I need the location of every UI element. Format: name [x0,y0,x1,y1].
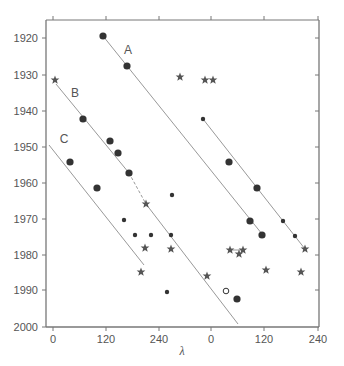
y-tick-label: 2000 [14,321,38,333]
dot-marker [106,137,113,144]
y-tick-label: 1950 [14,141,38,153]
dot-marker-small [170,193,174,197]
x-tick-label: 240 [309,333,327,345]
y-tick-label: 1980 [14,249,38,261]
dot-marker [258,231,265,238]
dot-marker [233,295,240,302]
dot-marker [66,158,73,165]
star-marker [209,75,218,83]
dot-marker-small [281,219,285,223]
star-marker [142,199,151,207]
y-tick-label: 1920 [14,32,38,44]
y-tick-label: 1970 [14,213,38,225]
dot-marker-small [122,218,126,222]
dot-marker [93,184,100,191]
dot-marker [79,115,86,122]
star-marker [203,271,212,279]
star-marker [262,265,271,273]
x-tick-label: 0 [208,333,214,345]
dot-marker [253,184,260,191]
y-tick-label: 1940 [14,105,38,117]
dot-marker [125,169,132,176]
y-tick-label: 1930 [14,69,38,81]
star-marker [137,267,146,275]
dot-marker [99,32,106,39]
series-label-b: B [71,86,79,100]
open-circle-marker [223,288,229,294]
series-lines [49,36,305,324]
star-marker [226,245,235,253]
x-tick-label: 240 [150,333,168,345]
dot-marker [225,158,232,165]
plot-frame [46,20,319,327]
dot-marker [123,62,130,69]
series-line-b-lower [146,204,238,324]
x-axis-title: λ [178,344,184,358]
star-marker [176,72,185,80]
data-markers [51,32,310,302]
series-line-d [203,119,305,249]
dot-marker-small [201,117,205,121]
star-marker [51,75,60,83]
x-tick-label: 120 [97,333,115,345]
series-label-a: A [124,43,132,57]
series-line-c [49,145,144,265]
series-line-b [56,84,129,173]
star-marker [141,243,150,251]
x-tick-label: 0 [50,333,56,345]
dot-marker-small [169,233,173,237]
y-tick-label: 1990 [14,284,38,296]
dot-marker-small [149,233,153,237]
chart: 0120240012024019201930194019501960197019… [0,0,344,366]
dot-marker-small [133,233,137,237]
x-tick-label: 120 [255,333,273,345]
dot-marker-small [293,234,297,238]
star-marker [297,267,306,275]
series-label-c: C [60,132,69,146]
dot-marker [114,149,121,156]
star-marker [167,244,176,252]
dot-marker-small [165,290,169,294]
dot-marker [246,217,253,224]
axis-ticks: 0120240012024019201930194019501960197019… [14,16,328,345]
y-tick-label: 1960 [14,177,38,189]
star-marker [201,75,210,83]
series-line-b-dashed [129,173,146,204]
